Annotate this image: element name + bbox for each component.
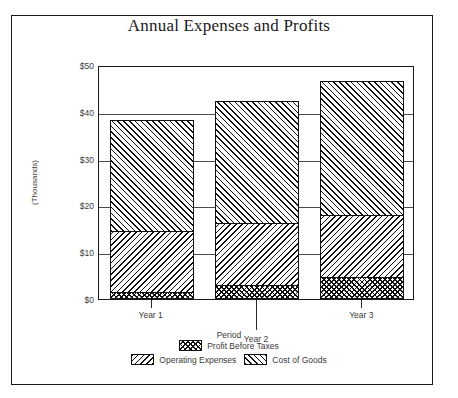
x-axis-tick — [151, 300, 152, 308]
y-axis-tick-label: $0 — [60, 295, 94, 305]
bar-segment-operating-expenses[interactable] — [111, 232, 193, 294]
legend-swatch-icon — [244, 354, 267, 365]
x-axis-tick — [256, 300, 257, 330]
x-axis-tick — [361, 300, 362, 308]
legend-label: Operating Expenses — [159, 355, 236, 365]
y-axis-tick-label: $30 — [60, 155, 94, 165]
chart-legend: Profit Before TaxesOperating ExpensesCos… — [0, 340, 458, 368]
bar-year-1[interactable] — [110, 120, 194, 299]
legend-item-profit-before-taxes[interactable]: Profit Before Taxes — [179, 340, 279, 351]
x-axis-label-year-3: Year 3 — [349, 310, 373, 320]
y-axis-tick-label: $10 — [60, 248, 94, 258]
bar-segment-operating-expenses[interactable] — [216, 224, 298, 287]
bar-segment-cost-of-goods[interactable] — [321, 82, 403, 216]
plot-area — [98, 66, 414, 300]
bar-segment-cost-of-goods[interactable] — [216, 102, 298, 224]
y-axis-title: (Thousands) — [30, 143, 39, 223]
bar-segment-profit-before-taxes[interactable] — [321, 278, 403, 298]
y-axis-tick-label: $20 — [60, 201, 94, 211]
legend-item-cost-of-goods[interactable]: Cost of Goods — [244, 354, 326, 365]
legend-swatch-icon — [179, 340, 202, 351]
legend-item-operating-expenses[interactable]: Operating Expenses — [131, 354, 236, 365]
x-axis-title: Period — [0, 330, 458, 340]
legend-label: Cost of Goods — [272, 355, 326, 365]
bar-segment-profit-before-taxes[interactable] — [216, 286, 298, 298]
legend-row: Profit Before Taxes — [0, 340, 458, 351]
chart-canvas: Annual Expenses and Profits (Thousands) … — [0, 0, 458, 398]
bar-year-3[interactable] — [320, 81, 404, 299]
y-axis-tick-label: $40 — [60, 108, 94, 118]
bar-segment-cost-of-goods[interactable] — [111, 121, 193, 232]
bar-year-2[interactable] — [215, 101, 299, 299]
y-axis-tick-label: $50 — [60, 61, 94, 71]
bar-segment-profit-before-taxes[interactable] — [111, 293, 193, 298]
x-axis-label-year-1: Year 1 — [139, 310, 163, 320]
legend-label: Profit Before Taxes — [207, 341, 279, 351]
legend-swatch-icon — [131, 354, 154, 365]
bar-segment-operating-expenses[interactable] — [321, 216, 403, 278]
legend-row: Operating ExpensesCost of Goods — [0, 354, 458, 365]
